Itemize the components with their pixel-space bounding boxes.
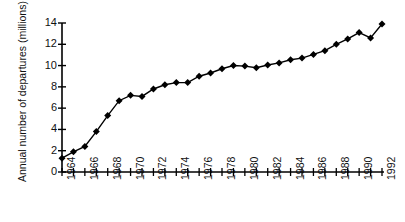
data-point-marker xyxy=(253,64,260,71)
data-point-marker xyxy=(207,70,214,77)
data-point-marker xyxy=(150,85,157,92)
data-point-marker xyxy=(241,63,248,70)
data-point-marker xyxy=(173,79,180,86)
data-point-markers xyxy=(59,21,386,162)
chart-figure: Annual number of departures (millions) 0… xyxy=(0,0,405,222)
data-point-marker xyxy=(299,55,306,62)
data-point-marker xyxy=(287,56,294,63)
data-point-marker xyxy=(219,65,226,72)
data-point-marker xyxy=(310,51,317,58)
data-point-marker xyxy=(59,155,66,162)
data-point-marker xyxy=(276,59,283,66)
data-point-marker xyxy=(344,35,351,42)
data-point-marker xyxy=(333,41,340,48)
data-point-marker xyxy=(139,93,146,100)
data-point-marker xyxy=(70,148,77,155)
data-point-marker xyxy=(196,73,203,80)
data-point-marker xyxy=(161,81,168,88)
data-point-marker xyxy=(356,29,363,36)
data-point-marker xyxy=(184,79,191,86)
data-point-marker xyxy=(321,47,328,54)
data-point-marker xyxy=(264,62,271,69)
data-point-marker xyxy=(127,92,134,99)
plot-area xyxy=(0,0,405,222)
data-point-marker xyxy=(230,62,237,69)
